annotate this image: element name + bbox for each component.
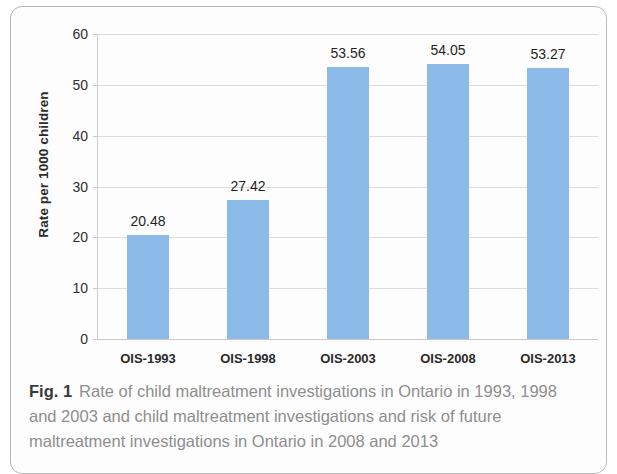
bar-value-label: 53.27 <box>530 46 565 62</box>
bar <box>127 235 169 339</box>
figure-caption: Fig. 1Rate of child maltreatment investi… <box>29 379 589 454</box>
bar-value-label: 53.56 <box>330 45 365 61</box>
y-axis-tick-label: 0 <box>80 331 88 347</box>
bar-group: 53.56OIS-2003 <box>298 34 398 339</box>
figure-caption-label: Fig. 1 <box>29 382 72 400</box>
bar <box>527 68 569 339</box>
x-axis-tick-label: OIS-2008 <box>420 351 476 366</box>
bar <box>227 200 269 339</box>
y-axis-tick-label: 20 <box>72 229 88 245</box>
bar-value-label: 27.42 <box>230 178 265 194</box>
y-axis-title: Rate per 1000 children <box>36 75 51 255</box>
bar <box>327 67 369 339</box>
y-axis-tick-label: 10 <box>72 280 88 296</box>
x-axis-tick-label: OIS-1993 <box>120 351 176 366</box>
x-axis-tick-label: OIS-2003 <box>320 351 376 366</box>
y-axis-tick-label: 60 <box>72 26 88 42</box>
x-axis-tick-label: OIS-1998 <box>220 351 276 366</box>
bar-group: 54.05OIS-2008 <box>398 34 498 339</box>
x-axis-tick-label: OIS-2013 <box>520 351 576 366</box>
bar-group: 27.42OIS-1998 <box>198 34 298 339</box>
bars-layer: 20.48OIS-199327.42OIS-199853.56OIS-20035… <box>98 34 598 339</box>
figure-card: Rate per 1000 children 0102030405060 20.… <box>10 6 607 474</box>
bar-value-label: 20.48 <box>130 213 165 229</box>
y-axis-tick-label: 50 <box>72 77 88 93</box>
gridline <box>98 339 598 340</box>
y-axis-tickmark <box>93 339 98 340</box>
bar-chart: Rate per 1000 children 0102030405060 20.… <box>11 7 608 369</box>
figure-caption-text: Rate of child maltreatment investigation… <box>29 382 557 450</box>
bar-group: 20.48OIS-1993 <box>98 34 198 339</box>
y-axis-tick-label: 40 <box>72 128 88 144</box>
bar-value-label: 54.05 <box>430 42 465 58</box>
bar-group: 53.27OIS-2013 <box>498 34 598 339</box>
bar <box>427 64 469 339</box>
y-axis-tick-label: 30 <box>72 179 88 195</box>
plot-area: 0102030405060 20.48OIS-199327.42OIS-1998… <box>97 34 598 339</box>
